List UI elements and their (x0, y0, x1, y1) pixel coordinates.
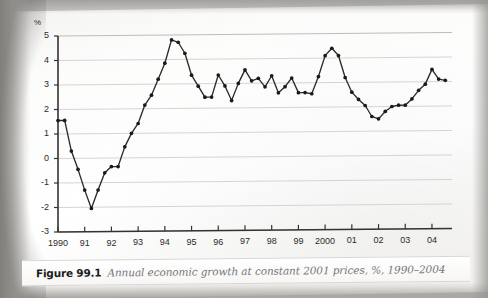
data-point (317, 75, 321, 79)
x-axis-tick-label: 94 (160, 237, 170, 247)
data-point (203, 95, 207, 99)
data-point (170, 38, 174, 42)
data-point (123, 145, 127, 149)
data-point (250, 79, 254, 83)
data-point (163, 61, 167, 65)
data-point (223, 84, 227, 88)
y-axis-tick-label: 2 (31, 104, 49, 114)
figure-caption: Figure 99.1 Annual economic growth at co… (22, 256, 470, 287)
data-point (56, 119, 60, 123)
data-point (383, 110, 387, 114)
data-point (277, 91, 281, 95)
data-point (350, 90, 354, 94)
data-point (397, 103, 401, 107)
gridline (58, 32, 452, 36)
data-point (196, 84, 200, 88)
gridline (58, 81, 452, 85)
gridline (58, 179, 452, 183)
x-axis-tick-label: 2000 (315, 236, 335, 246)
data-point (410, 97, 414, 101)
data-point (343, 76, 347, 80)
data-point (370, 115, 374, 119)
y-axis-tick-label: 0 (31, 153, 49, 163)
data-point (236, 82, 240, 86)
data-point (96, 188, 100, 192)
data-point (437, 77, 441, 81)
data-point (210, 95, 214, 99)
data-point (310, 92, 314, 96)
data-point (190, 73, 194, 77)
data-point (330, 46, 334, 50)
scanned-figure-page: % -3-2-1012345 1990919293949596979899200… (0, 0, 488, 298)
x-axis-tick-label: 91 (80, 238, 90, 248)
data-point (377, 117, 381, 121)
line-chart-plot (0, 0, 488, 298)
data-point (337, 54, 341, 58)
x-axis-tick-label: 93 (133, 237, 143, 247)
series-line-0 (58, 40, 445, 209)
x-axis-tick-label: 1990 (48, 238, 68, 248)
data-point (76, 167, 80, 171)
caption-title: Annual economic growth at constant 2001 … (107, 263, 445, 279)
data-point (403, 103, 407, 107)
figure-chart: % -3-2-1012345 1990919293949596979899200… (0, 0, 488, 298)
data-point (70, 149, 74, 153)
y-axis-tick-label: -2 (31, 202, 49, 212)
x-axis-tick-label: 96 (213, 237, 223, 247)
data-point (116, 165, 120, 169)
gridline (58, 57, 452, 61)
data-point (230, 99, 234, 103)
data-point (263, 85, 267, 89)
data-point (417, 88, 421, 92)
data-point (216, 73, 220, 77)
data-point (256, 76, 260, 80)
x-axis-tick-label: 92 (106, 238, 116, 248)
data-point (290, 76, 294, 80)
x-axis-tick-label: 04 (427, 235, 437, 245)
data-point (243, 68, 247, 72)
y-axis-tick-label: -1 (31, 177, 49, 187)
data-point (183, 51, 187, 55)
y-axis-tick-label: 5 (31, 30, 49, 40)
y-axis-tick-label: 1 (31, 128, 49, 138)
data-point (176, 40, 180, 44)
data-point (323, 54, 327, 58)
gridline (58, 155, 452, 159)
caption-figure-number: Figure 99.1 (36, 267, 101, 280)
x-axis-tick-label: 98 (267, 236, 277, 246)
data-point (136, 122, 140, 126)
data-point (63, 119, 67, 123)
data-point (390, 105, 394, 109)
data-point (357, 98, 361, 102)
data-point (283, 85, 287, 89)
x-axis-tick-label: 02 (374, 235, 384, 245)
data-point (90, 207, 94, 211)
data-point (430, 68, 434, 72)
data-point (443, 78, 447, 82)
data-point (150, 93, 154, 97)
data-point (270, 74, 274, 78)
x-axis-line (58, 228, 452, 232)
x-axis-tick-label: 95 (187, 237, 197, 247)
data-point (303, 91, 307, 95)
y-axis-tick-label: 4 (31, 55, 49, 65)
y-axis-tick-label: 3 (31, 79, 49, 89)
x-axis-tick-label: 97 (240, 236, 250, 246)
data-point (103, 171, 107, 175)
data-point (110, 165, 114, 169)
data-point (297, 91, 301, 95)
data-point (143, 103, 147, 107)
data-point (83, 188, 87, 192)
x-axis-tick-label: 99 (293, 236, 303, 246)
data-point (130, 131, 134, 135)
gridline (58, 130, 452, 134)
series-markers-0 (56, 38, 447, 210)
x-axis-tick-label: 01 (347, 235, 357, 245)
gridlines (58, 32, 452, 232)
x-axis-tick-label: 03 (400, 235, 410, 245)
data-point (363, 104, 367, 108)
data-point (156, 77, 160, 81)
data-point (423, 82, 427, 86)
gridline (58, 204, 452, 208)
y-axis-tick-label: -3 (31, 226, 49, 236)
